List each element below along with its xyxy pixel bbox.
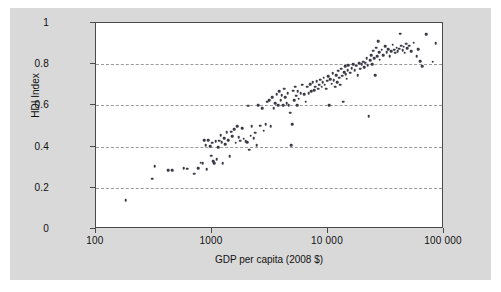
data-point — [277, 104, 280, 107]
data-point — [413, 41, 416, 44]
data-point — [315, 80, 318, 83]
gridline — [96, 64, 442, 65]
data-point — [337, 69, 340, 72]
data-point — [255, 144, 258, 147]
data-point — [369, 59, 372, 62]
data-point — [271, 96, 274, 99]
data-point — [193, 172, 196, 175]
data-point — [331, 82, 334, 85]
data-point — [382, 54, 385, 57]
data-point — [219, 134, 222, 137]
data-point — [303, 93, 306, 96]
data-point — [372, 50, 375, 53]
x-tick-label: 1000 — [199, 235, 222, 246]
data-point — [186, 168, 189, 171]
data-point — [384, 45, 387, 48]
data-point — [231, 135, 234, 138]
y-tick-label: 0.8 — [34, 58, 49, 69]
data-point — [345, 77, 348, 80]
data-point — [404, 52, 407, 55]
data-point — [228, 155, 231, 158]
data-point — [340, 67, 343, 70]
x-tick-mark — [327, 228, 328, 233]
data-point — [360, 63, 363, 66]
data-point — [410, 50, 413, 53]
data-point — [415, 55, 418, 58]
scatter-chart: HDI Index 00.20.40.60.81 100100010 00010… — [0, 0, 501, 292]
data-point — [241, 127, 244, 130]
data-point — [257, 104, 260, 107]
data-point — [398, 47, 401, 50]
data-point — [334, 86, 337, 89]
x-axis-title: GDP per capita (2008 $) — [95, 254, 443, 265]
data-point — [223, 137, 226, 140]
data-point — [296, 104, 299, 107]
data-point — [204, 144, 207, 147]
data-point — [325, 87, 328, 90]
data-point — [272, 107, 275, 110]
data-point — [268, 99, 271, 102]
y-tick-label: 0.4 — [34, 140, 49, 151]
y-tick-label: 0.6 — [34, 99, 49, 110]
data-point — [299, 92, 302, 95]
data-point — [167, 169, 170, 172]
data-point — [197, 167, 200, 170]
data-point — [301, 84, 304, 87]
data-point — [402, 45, 405, 48]
data-point — [291, 123, 294, 126]
data-point — [227, 139, 230, 142]
data-point — [332, 72, 335, 75]
data-point — [246, 141, 249, 144]
data-point — [306, 86, 309, 89]
gridline — [96, 105, 442, 106]
data-point — [324, 84, 327, 87]
data-point — [281, 94, 284, 97]
data-point — [236, 125, 239, 128]
data-point — [347, 64, 350, 67]
data-point — [435, 42, 438, 45]
data-point — [182, 167, 185, 170]
data-point — [151, 177, 154, 180]
data-point — [124, 199, 127, 202]
data-point — [203, 139, 206, 142]
data-point — [252, 137, 255, 140]
plot-area — [95, 22, 443, 228]
data-point — [294, 86, 297, 89]
data-point — [295, 94, 298, 97]
data-point — [211, 142, 214, 145]
data-point — [153, 165, 156, 168]
data-point — [207, 139, 210, 142]
data-point — [342, 100, 345, 103]
y-tick-label: 0 — [43, 223, 49, 234]
data-point — [216, 158, 219, 161]
data-point — [349, 72, 352, 75]
data-point — [264, 123, 267, 126]
data-point — [368, 115, 371, 118]
data-point — [290, 144, 293, 147]
data-point — [215, 140, 218, 143]
data-point — [313, 89, 316, 92]
data-point — [417, 48, 420, 51]
x-tick-mark — [443, 228, 444, 233]
data-point — [421, 65, 424, 68]
data-point — [431, 60, 434, 63]
data-point — [230, 130, 233, 133]
x-tick-label: 10 000 — [311, 235, 343, 246]
data-point — [365, 57, 368, 60]
data-point — [269, 125, 272, 128]
data-point — [370, 54, 373, 57]
data-point — [363, 66, 366, 69]
data-point — [209, 145, 212, 148]
x-tick-label: 100 — [86, 235, 103, 246]
data-point — [374, 74, 377, 77]
data-point — [222, 162, 225, 165]
data-point — [224, 143, 227, 146]
data-point — [259, 124, 262, 127]
y-tick-label: 1 — [43, 17, 49, 28]
data-point — [217, 146, 220, 149]
data-point — [297, 98, 300, 101]
data-point — [359, 67, 362, 70]
data-point — [380, 48, 383, 51]
data-point — [263, 129, 266, 132]
data-point — [377, 40, 380, 43]
